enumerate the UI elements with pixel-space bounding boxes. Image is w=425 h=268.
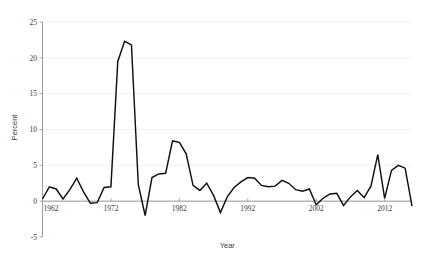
y-tick-label: -5 [31, 233, 37, 242]
data-series-line [43, 41, 413, 215]
y-axis [40, 22, 43, 237]
x-tick-label: 1982 [172, 204, 187, 213]
chart-container: -50510152025 196219721982199220022012 Ye… [0, 0, 425, 268]
x-tick-label: 1962 [44, 204, 59, 213]
x-tick-label: 2012 [377, 204, 392, 213]
y-tick-label: 15 [30, 89, 38, 98]
gridlines [43, 22, 413, 201]
y-tick-label: 20 [30, 54, 38, 63]
x-tick-label: 1972 [103, 204, 118, 213]
y-tick-label: 10 [30, 125, 38, 134]
x-axis-title: Year [220, 241, 236, 250]
y-tick-labels: -50510152025 [30, 18, 38, 242]
y-tick-label: 25 [30, 18, 38, 27]
x-tick-label: 1992 [240, 204, 255, 213]
y-tick-label: 0 [33, 197, 37, 206]
y-tick-label: 5 [33, 161, 37, 170]
y-axis-title: Percent [10, 114, 19, 141]
line-chart: -50510152025 196219721982199220022012 Ye… [0, 0, 425, 268]
